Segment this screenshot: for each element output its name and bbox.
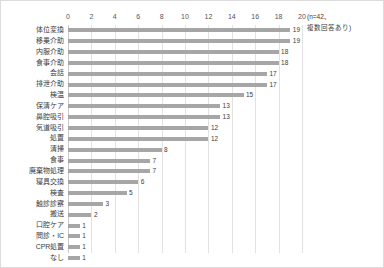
bar-row: 13 (68, 112, 302, 123)
bar (68, 256, 80, 260)
bar (68, 191, 127, 195)
category-label: 気道吸引 (3, 123, 66, 134)
x-tick-label: 6 (136, 11, 140, 23)
bar (68, 104, 220, 108)
x-tick-label: 4 (113, 11, 117, 23)
category-label: 廃棄物処理 (3, 166, 66, 177)
category-label: 食事 (3, 155, 66, 166)
bar-value-label: 1 (80, 232, 86, 240)
x-tick-label: 2 (89, 11, 93, 23)
bar (68, 202, 103, 206)
bar-value-label: 5 (127, 189, 133, 197)
bar-chart: 02468101214161820 (n=42、複数回答あり) 19191818… (0, 0, 384, 268)
bar-row: 19 (68, 25, 302, 36)
category-label: なし (3, 253, 66, 264)
bar-rows: 191918181717151313121287765321111 (68, 25, 302, 253)
category-label: 会話 (3, 68, 66, 79)
bar-row: 12 (68, 133, 302, 144)
bar-value-label: 1 (80, 254, 86, 262)
bar-row: 8 (68, 144, 302, 155)
bar-row: 13 (68, 101, 302, 112)
bar-value-label: 18 (279, 48, 289, 56)
x-tick-label: 0 (66, 11, 70, 23)
bar-row: 7 (68, 166, 302, 177)
bar-row: 18 (68, 58, 302, 69)
bar-value-label: 13 (220, 113, 230, 121)
category-label: 検温 (3, 90, 66, 101)
bar-row: 6 (68, 177, 302, 188)
category-label: 処置 (3, 133, 66, 144)
bar (68, 72, 267, 76)
category-label: 鼻腔吸引 (3, 112, 66, 123)
bar-row: 12 (68, 123, 302, 134)
category-label: 搬送 (3, 209, 66, 220)
x-axis-ticks: 02468101214161820 (68, 11, 302, 23)
bar-value-label: 19 (290, 26, 300, 34)
bar (68, 137, 208, 141)
category-label: 寝具交換 (3, 177, 66, 188)
bar (68, 39, 290, 43)
bar-row: 17 (68, 79, 302, 90)
bar (68, 50, 279, 54)
category-label: 食事介助 (3, 58, 66, 69)
bar-value-label: 8 (162, 146, 168, 154)
bar (68, 159, 150, 163)
bar (68, 224, 80, 228)
bar-row: 17 (68, 68, 302, 79)
category-label: 体位変換 (3, 25, 66, 36)
category-label: 触診診察 (3, 199, 66, 210)
bar-value-label: 7 (150, 157, 156, 165)
bar-row: 3 (68, 199, 302, 210)
bar-value-label: 3 (103, 200, 109, 208)
category-label: CPR処置 (3, 242, 66, 253)
x-tick-label: 20 (298, 11, 306, 23)
bar-value-label: 6 (138, 178, 144, 186)
bar-value-label: 7 (150, 167, 156, 175)
bar (68, 28, 290, 32)
bar-value-label: 2 (91, 211, 97, 219)
bar (68, 169, 150, 173)
bar (68, 234, 80, 238)
bar (68, 148, 162, 152)
x-tick-label: 8 (160, 11, 164, 23)
bar (68, 93, 244, 97)
bar (68, 180, 138, 184)
category-label: 清掃 (3, 144, 66, 155)
annotation-line: 複数回答あり) (307, 22, 383, 33)
bar-value-label: 17 (267, 81, 277, 89)
bar-value-label: 19 (290, 37, 300, 45)
bar-value-label: 17 (267, 70, 277, 78)
category-label: 排泄介助 (3, 79, 66, 90)
category-label: 口腔ケア (3, 220, 66, 231)
bar-value-label: 18 (279, 59, 289, 67)
bar-value-label: 1 (80, 243, 86, 251)
bar-row: 5 (68, 188, 302, 199)
bar-row: 1 (68, 220, 302, 231)
bar (68, 126, 208, 130)
bar (68, 245, 80, 249)
bar (68, 61, 279, 65)
bar-row: 15 (68, 90, 302, 101)
bar-value-label: 12 (208, 135, 218, 143)
bar-row: 1 (68, 242, 302, 253)
category-label: 内服介助 (3, 47, 66, 58)
bar-value-label: 13 (220, 102, 230, 110)
bar-row: 1 (68, 253, 302, 264)
bar-row: 18 (68, 47, 302, 58)
bar (68, 213, 91, 217)
plot-area: 191918181717151313121287765321111 (68, 25, 302, 253)
bar-row: 1 (68, 231, 302, 242)
x-tick-label: 14 (228, 11, 236, 23)
gridline (302, 25, 303, 253)
bar-value-label: 12 (208, 124, 218, 132)
category-label: 保清ケア (3, 101, 66, 112)
x-tick-label: 12 (204, 11, 212, 23)
bar (68, 115, 220, 119)
category-label: 移乗介助 (3, 36, 66, 47)
bar (68, 83, 267, 87)
annotation-line: (n=42、 (307, 11, 383, 22)
x-tick-label: 18 (275, 11, 283, 23)
category-label: 検査 (3, 188, 66, 199)
sample-size-annotation: (n=42、複数回答あり) (307, 11, 383, 33)
bar-value-label: 1 (80, 222, 86, 230)
